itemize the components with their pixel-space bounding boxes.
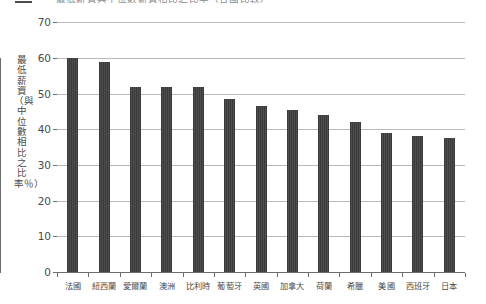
y-tick-label: 30 (38, 159, 51, 171)
bar-chart: 最低薪資與中位數薪資相比之比率（各國比較） 最低薪資（與中位數相比之比率％） 0… (0, 0, 486, 304)
bar (130, 87, 141, 272)
x-tick-mark (88, 273, 89, 277)
y-tick-mark (53, 94, 57, 95)
y-tick-mark (53, 201, 57, 202)
y-tick-label: 40 (38, 123, 51, 135)
bar (193, 87, 204, 272)
x-tick-mark (371, 273, 372, 277)
y-tick-label: 50 (38, 88, 51, 100)
x-tick-mark (402, 273, 403, 277)
x-tick-mark (465, 273, 466, 277)
x-tick-label: 葡萄牙 (217, 279, 241, 291)
bar (67, 58, 78, 272)
y-tick-label: 70 (38, 16, 51, 28)
y-axis-title: 最低薪資（與中位數相比之比率％） (14, 55, 29, 189)
x-tick-mark (308, 273, 309, 277)
bar (99, 62, 110, 272)
x-tick-label: 美國 (378, 279, 394, 291)
y-axis-line (0, 58, 1, 273)
y-tick-mark (53, 236, 57, 237)
y-tick-mark (53, 165, 57, 166)
bar (224, 99, 235, 272)
bar (287, 110, 298, 272)
y-tick-label: 10 (38, 230, 51, 242)
x-tick-label: 加拿大 (280, 279, 304, 291)
x-tick-label: 英國 (253, 279, 269, 291)
bar (350, 122, 361, 272)
x-tick-mark (245, 273, 246, 277)
gridline (57, 58, 465, 59)
y-tick-mark (53, 22, 57, 23)
x-tick-label: 愛爾蘭 (123, 279, 147, 291)
x-tick-label: 日本 (441, 279, 457, 291)
bar (444, 138, 455, 272)
x-tick-label: 比利時 (186, 279, 210, 291)
x-tick-mark (183, 273, 184, 277)
bar (412, 136, 423, 272)
gridline (57, 94, 465, 95)
bar (318, 115, 329, 272)
y-tick-label: 60 (38, 52, 51, 64)
x-tick-label: 希臘 (347, 279, 363, 291)
gridline (57, 22, 465, 23)
x-axis-line (57, 272, 465, 273)
chart-title: 最低薪資與中位數薪資相比之比率（各國比較） (56, 0, 270, 5)
x-tick-mark (120, 273, 121, 277)
y-tick-label: 0 (44, 266, 51, 278)
y-tick-label: 20 (38, 195, 51, 207)
plot-area: 010203040506070 (57, 58, 465, 272)
x-tick-label: 荷蘭 (316, 279, 332, 291)
title-rule (15, 1, 32, 3)
x-tick-mark (434, 273, 435, 277)
y-tick-mark (53, 58, 57, 59)
x-tick-label: 法國 (65, 279, 81, 291)
x-tick-label: 澳洲 (159, 279, 175, 291)
chart-title-strip: 最低薪資與中位數薪資相比之比率（各國比較） (0, 0, 486, 9)
bar (256, 106, 267, 272)
x-tick-label: 紐西蘭 (92, 279, 116, 291)
x-tick-mark (151, 273, 152, 277)
bar (161, 87, 172, 272)
bar (381, 133, 392, 272)
x-tick-mark (214, 273, 215, 277)
x-tick-mark (57, 273, 58, 277)
y-tick-mark (53, 129, 57, 130)
x-tick-label: 西班牙 (406, 279, 430, 291)
x-tick-mark (277, 273, 278, 277)
x-tick-mark (339, 273, 340, 277)
